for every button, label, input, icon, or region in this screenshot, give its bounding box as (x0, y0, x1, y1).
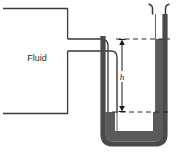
height-label: h (120, 72, 125, 82)
fluid-label: Fluid (27, 53, 47, 63)
liquid-left-column (105, 112, 115, 134)
manometer-figure: h Fluid (0, 0, 180, 152)
manometer-diagram: h Fluid (0, 0, 180, 152)
